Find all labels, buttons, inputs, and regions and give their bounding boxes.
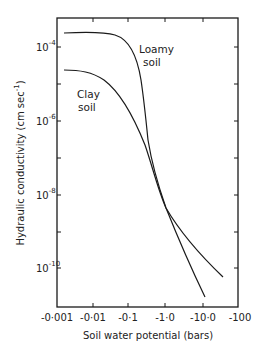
x-tick-labels: -0·001 -0·01 -0·1 -1·0 -10·0 -100 [41, 312, 251, 323]
y-axis-title: Hydraulic conductivity (cm sec-1) [13, 80, 26, 245]
loamy-soil-annotation: Loamy soil [139, 43, 174, 68]
x-axis-title: Soil water potential (bars) [83, 330, 213, 341]
hydraulic-conductivity-chart: 10-4 10-6 10-8 10-10 -0·001 -0·01 -0·1 -… [0, 0, 261, 359]
svg-text:Loamy: Loamy [139, 43, 174, 55]
svg-text:Clay: Clay [77, 88, 100, 100]
x-tick-label-3: -1·0 [155, 312, 175, 323]
x-tick-label-0: -0·001 [41, 312, 73, 323]
x-tick-label-5: -100 [229, 312, 252, 323]
y-tick-label-1e-6: 10-6 [36, 113, 56, 127]
svg-text:soil: soil [143, 56, 161, 68]
y-tick-label-1e-8: 10-8 [36, 187, 56, 201]
x-tick-label-1: -0·01 [80, 312, 106, 323]
x-tick-label-2: -0·1 [118, 312, 138, 323]
y-tick-label-1e-4: 10-4 [36, 39, 56, 53]
x-tick-label-4: -10·0 [190, 312, 216, 323]
svg-text:soil: soil [78, 101, 96, 113]
clay-soil-annotation: Clay soil [77, 88, 100, 113]
